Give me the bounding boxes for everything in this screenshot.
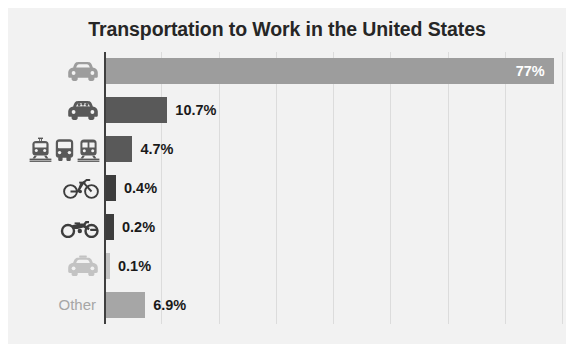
- bar-row: 0.1%: [104, 246, 562, 285]
- bar[interactable]: [105, 214, 114, 240]
- bar-value-label: 0.1%: [118, 258, 151, 274]
- tram-icon: [29, 137, 52, 162]
- bar-row: 0.2%: [104, 207, 562, 246]
- chart-title: Transportation to Work in the United Sta…: [8, 18, 566, 41]
- bar-value-label: 4.7%: [140, 141, 173, 157]
- train-icon: [77, 137, 100, 162]
- car-icon: [66, 60, 100, 82]
- bar-row: 4.7%: [104, 130, 562, 169]
- bus-icon: [54, 137, 75, 162]
- bar-row: 10.7%: [104, 91, 562, 130]
- bar-row: 77%: [104, 52, 562, 91]
- bar[interactable]: [105, 58, 554, 84]
- chart-panel: Transportation to Work in the United Sta…: [8, 8, 566, 344]
- bar-row: 0.4%: [104, 169, 562, 208]
- category-label-cell: [8, 207, 104, 246]
- category-label-cell: [8, 52, 104, 91]
- bar[interactable]: [105, 175, 116, 201]
- bar-value-label: 10.7%: [175, 102, 216, 118]
- train-icon: [77, 137, 100, 162]
- carpool-car-icon: [66, 99, 100, 121]
- category-text-label: Other: [58, 296, 100, 313]
- bar-value-label: 77%: [516, 63, 545, 79]
- category-label-cell: Other: [8, 285, 104, 324]
- value-axis-line: [104, 52, 106, 324]
- category-label-cell: [8, 91, 104, 130]
- bicycle-icon: [62, 177, 100, 199]
- category-label-cell: [8, 169, 104, 208]
- bar-value-label: 0.2%: [122, 219, 155, 235]
- bar-value-label: 0.4%: [124, 180, 157, 196]
- plot-area: 77%10.7%4.7%0.4%0.2%0.1%6.9%: [104, 52, 562, 324]
- bar[interactable]: [105, 292, 145, 318]
- bar[interactable]: [105, 253, 110, 279]
- category-label-cell: [8, 130, 104, 169]
- bar-row: 6.9%: [104, 285, 562, 324]
- taxi-icon: [66, 255, 100, 277]
- bar[interactable]: [105, 136, 132, 162]
- bus-icon: [54, 137, 75, 162]
- motorcycle-icon: [60, 216, 100, 238]
- bar-value-label: 6.9%: [153, 297, 186, 313]
- tram-icon: [29, 137, 52, 162]
- bicycle-icon: [62, 177, 100, 199]
- carpool-car-icon: [66, 99, 100, 121]
- gridline: [562, 52, 563, 324]
- motorcycle-icon: [60, 216, 100, 238]
- bar[interactable]: [105, 97, 167, 123]
- car-icon: [66, 60, 100, 82]
- category-label-cell: [8, 246, 104, 285]
- taxi-icon: [66, 255, 100, 277]
